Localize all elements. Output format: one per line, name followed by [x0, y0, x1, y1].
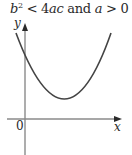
parabola-graph: y 0 x [0, 0, 132, 155]
x-axis-label: x [114, 120, 121, 134]
parabola-curve [16, 33, 111, 99]
origin-label: 0 [16, 119, 24, 133]
y-axis-label: y [13, 16, 21, 30]
y-axis-arrow-icon [22, 23, 28, 31]
